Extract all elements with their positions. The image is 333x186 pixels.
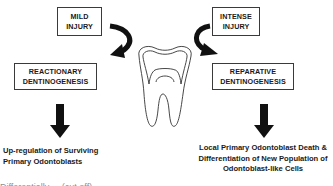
reparative-outcome-text: Local Primary Odontoblast Death & Differ…: [180, 143, 333, 175]
reactionary-line1: REACTIONARY: [29, 67, 83, 77]
reparative-outcome-line1: Local Primary Odontoblast Death &: [180, 143, 333, 154]
reparative-line1: REPARATIVE: [230, 67, 276, 77]
reparative-outcome-line2: Differentiation of New Population of: [180, 154, 333, 165]
reactionary-outcome-text: Up-regulation of Surviving Primary Odont…: [3, 146, 133, 167]
mild-injury-line1: MILD: [71, 12, 89, 22]
intense-injury-line1: INTENSE: [220, 12, 252, 22]
reparative-line2: DENTINOGENESIS: [220, 77, 286, 87]
tooth-icon: [133, 44, 197, 130]
reparative-dentinogenesis-box: REPARATIVE DENTINOGENESIS: [212, 63, 294, 90]
mild-injury-box: MILD INJURY: [57, 7, 102, 36]
reactionary-line2: DENTINOGENESIS: [23, 77, 89, 87]
caption-fragment-text: Differentially ... (cut off): [0, 182, 92, 186]
reparative-outcome-line3: Odontoblast-like Cells: [180, 164, 333, 175]
intense-injury-line2: INJURY: [223, 22, 250, 32]
down-arrow-left-icon: [50, 104, 70, 138]
reactionary-outcome-line1: Up-regulation of Surviving: [3, 146, 133, 157]
mild-injury-line2: INJURY: [66, 22, 93, 32]
down-arrow-right-icon: [254, 104, 274, 138]
caption-fragment: Differentially ... (cut off): [0, 179, 333, 186]
reactionary-dentinogenesis-box: REACTIONARY DENTINOGENESIS: [14, 63, 97, 90]
reactionary-outcome-line2: Primary Odontoblasts: [3, 157, 133, 168]
